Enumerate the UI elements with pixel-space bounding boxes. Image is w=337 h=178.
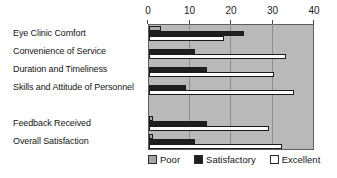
- bar-group: [149, 96, 313, 114]
- x-axis-tick-label: 40: [308, 5, 319, 16]
- legend-swatch-satisfactory: [194, 155, 203, 164]
- legend-item-satisfactory: Satisfactory: [194, 154, 256, 165]
- category-label: Convenience of Service: [13, 42, 106, 60]
- bar-excellent: [149, 144, 282, 149]
- bar-group: [149, 132, 313, 150]
- category-label: Eye Clinic Comfort: [13, 24, 86, 42]
- bar-group: [149, 60, 313, 78]
- bar-excellent: [149, 90, 294, 95]
- legend-swatch-excellent: [270, 155, 279, 164]
- category-label: Feedback Received: [13, 114, 91, 132]
- x-axis-tick: [147, 20, 148, 24]
- bar-excellent: [149, 72, 274, 77]
- bar-group: [149, 42, 313, 60]
- x-axis-tick-label: 30: [267, 5, 278, 16]
- legend-item-poor: Poor: [148, 154, 180, 165]
- bar-group: [149, 78, 313, 96]
- legend-label: Excellent: [282, 154, 321, 165]
- x-axis-tick-label: 20: [225, 5, 236, 16]
- x-axis-tick-label: 10: [184, 5, 195, 16]
- legend: PoorSatisfactoryExcellent: [148, 154, 320, 165]
- bar-group: [149, 24, 313, 42]
- legend-item-excellent: Excellent: [270, 154, 321, 165]
- legend-swatch-poor: [148, 155, 157, 164]
- category-label: Skills and Attitude of Personnel: [13, 78, 134, 96]
- legend-label: Satisfactory: [206, 154, 256, 165]
- category-label: Overall Satisfaction: [13, 132, 89, 150]
- x-axis-tick: [313, 20, 314, 24]
- bar-excellent: [149, 54, 286, 59]
- x-axis-tick-label: 0: [145, 5, 151, 16]
- legend-label: Poor: [160, 154, 180, 165]
- bar-group: [149, 114, 313, 132]
- bar-chart: 010203040 Eye Clinic ComfortConvenience …: [0, 0, 337, 178]
- bar-excellent: [149, 36, 224, 41]
- category-label: Duration and Timeliness: [13, 60, 107, 78]
- bar-excellent: [149, 126, 269, 131]
